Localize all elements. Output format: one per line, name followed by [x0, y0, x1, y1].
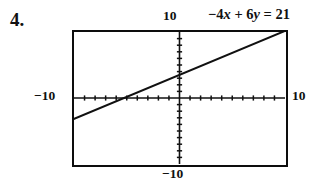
y-axis-min-label: −10	[162, 166, 183, 182]
x-axis-min-label: −10	[34, 88, 55, 104]
coordinate-plane	[74, 32, 286, 165]
x-axis-max-label: 10	[292, 88, 306, 104]
figure-container: 4. −4x + 6y = 21 10 −10 10 −10	[0, 0, 320, 189]
equation-term-2: 6	[246, 6, 253, 22]
equation-label: −4x + 6y = 21	[208, 6, 290, 23]
equation-term-1: −4	[208, 6, 224, 22]
equation-right-side: 21	[275, 6, 290, 22]
y-axis-max-label: 10	[163, 8, 177, 24]
equation-variable-x: x	[224, 6, 231, 22]
problem-number: 4.	[10, 9, 24, 31]
graph-svg	[74, 32, 285, 164]
graph-window	[72, 30, 288, 167]
equation-equals-sign: =	[264, 6, 272, 22]
equation-operator: +	[234, 6, 242, 22]
equation-variable-y: y	[254, 6, 260, 22]
